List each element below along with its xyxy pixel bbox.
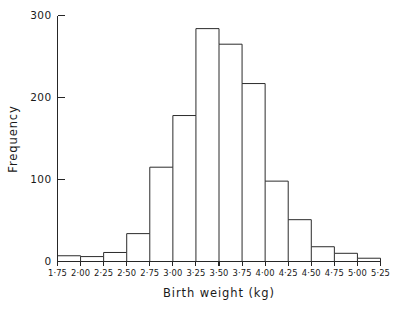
y-tick-label: 300 [30, 9, 51, 21]
histogram-figure: 0100200300 1·752·002·252·502·753·003·253… [0, 0, 398, 311]
x-axis-tick-labels: 1·752·002·252·502·753·003·253·503·754·00… [48, 268, 390, 278]
x-tick-label: 4·50 [302, 268, 321, 278]
figure-background [0, 0, 398, 311]
x-tick-label: 4·00 [256, 268, 275, 278]
x-tick-label: 2·25 [94, 268, 113, 278]
y-axis-title: Frequency [6, 105, 20, 173]
x-tick-label: 3·75 [233, 268, 252, 278]
x-tick-label: 5·25 [371, 268, 390, 278]
x-axis-title: Birth weight (kg) [163, 286, 275, 300]
x-tick-label: 4·25 [279, 268, 298, 278]
y-tick-label: 100 [30, 173, 51, 185]
x-tick-label: 2·00 [71, 268, 90, 278]
x-tick-label: 1·75 [48, 268, 67, 278]
x-tick-label: 2·75 [140, 268, 159, 278]
x-tick-label: 3·00 [163, 268, 182, 278]
birth-weight-histogram: 0100200300 1·752·002·252·502·753·003·253… [0, 0, 398, 311]
x-tick-label: 5·00 [348, 268, 367, 278]
x-tick-label: 3·50 [209, 268, 228, 278]
y-tick-label: 200 [30, 91, 51, 103]
y-tick-label: 0 [44, 255, 51, 267]
x-tick-label: 3·25 [186, 268, 205, 278]
x-tick-label: 4·75 [325, 268, 344, 278]
x-tick-label: 2·50 [117, 268, 136, 278]
